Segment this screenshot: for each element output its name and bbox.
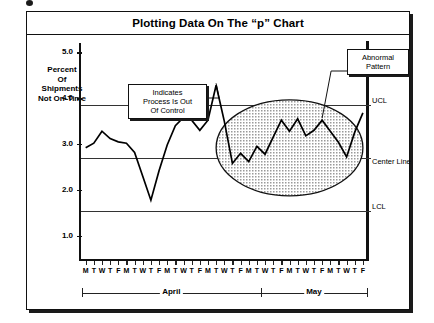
center-line-label: Center Line [372, 157, 411, 166]
y-axis-tick-label: 4.0 [47, 93, 73, 102]
abnormal-pattern-leader-line [322, 71, 347, 118]
y-axis-tick-mark [77, 98, 82, 99]
x-axis-tick-mark [241, 261, 242, 265]
x-axis-tick-mark [200, 261, 201, 265]
y-axis-tick-label: 1.0 [47, 231, 73, 240]
y-axis-tick-label: 2.0 [47, 185, 73, 194]
center-line [81, 158, 371, 159]
x-axis-tick-mark [322, 261, 323, 265]
month-group-row: AprilMay [27, 283, 409, 305]
x-axis-tick-mark [338, 261, 339, 265]
annotation-ooc-line-2: Process Is Out [133, 97, 202, 106]
y-axis-tick-label: 3.0 [47, 139, 73, 148]
y-axis-title-line-1: Percent [33, 65, 91, 75]
x-axis-tick-mark [224, 261, 225, 265]
x-axis-tick-mark [208, 261, 209, 265]
page-title: Plotting Data On The “p” Chart [132, 17, 304, 29]
y-axis-tick-label: 5.0 [47, 47, 73, 56]
y-axis-title-line-2: Of [33, 75, 91, 85]
month-label: April [160, 287, 182, 296]
x-axis-tick-mark [363, 261, 364, 265]
x-axis-tick-mark [167, 261, 168, 265]
x-axis-tick-mark [347, 261, 348, 265]
chart-title-bar: Plotting Data On The “p” Chart [27, 12, 409, 35]
annotation-abn-line-2: Pattern [352, 62, 404, 71]
x-axis-tick-mark [151, 261, 152, 265]
y-axis-line [79, 43, 81, 259]
x-axis-tick-label: F [357, 267, 369, 274]
x-axis-tick-mark [314, 261, 315, 265]
print-artifact-dot [26, 0, 33, 6]
x-axis-tick-mark [102, 261, 103, 265]
x-axis-tick-mark [330, 261, 331, 265]
y-axis-tick-mark [77, 144, 82, 145]
x-axis-tick-mark [298, 261, 299, 265]
x-axis-tick-mark [306, 261, 307, 265]
lcl-line [81, 211, 371, 212]
y-axis-tick-mark [77, 52, 82, 53]
x-axis-tick-mark [232, 261, 233, 265]
month-span-end-cap [367, 288, 368, 297]
ucl-line [81, 105, 371, 106]
annotation-ooc-line-1: Indicates [133, 88, 202, 97]
x-axis-tick-mark [273, 261, 274, 265]
y-axis-title-line-3: Shipments [33, 84, 91, 94]
ucl-label: UCL [372, 96, 387, 105]
x-axis-tick-mark [118, 261, 119, 265]
x-axis-tick-mark [175, 261, 176, 265]
x-axis-tick-mark [159, 261, 160, 265]
x-axis-tick-mark [216, 261, 217, 265]
x-axis-tick-mark [281, 261, 282, 265]
x-axis-tick-mark [86, 261, 87, 265]
x-axis-tick-mark [290, 261, 291, 265]
x-axis-tick-mark [184, 261, 185, 265]
abnormal-pattern-highlight-ellipse [216, 100, 363, 196]
x-axis-tick-mark [110, 261, 111, 265]
plot-container: Percent Of Shipments Not On-Time 5.04.03… [27, 35, 409, 311]
month-label: May [304, 287, 324, 296]
x-axis-tick-mark [192, 261, 193, 265]
month-span-end-cap [82, 288, 83, 297]
x-axis-tick-mark [265, 261, 266, 265]
lcl-label: LCL [372, 202, 386, 211]
out-of-control-leader-line [207, 83, 219, 98]
x-axis-tick-mark [355, 261, 356, 265]
chart-figure: Plotting Data On The “p” Chart Percent O… [26, 11, 410, 310]
annotation-out-of-control: Indicates Process Is Out Of Control [128, 84, 207, 119]
x-axis-tick-mark [94, 261, 95, 265]
x-axis-tick-mark [249, 261, 250, 265]
x-axis-tick-mark [143, 261, 144, 265]
x-axis-tick-mark [135, 261, 136, 265]
month-span-end-cap [261, 288, 262, 297]
annotation-abn-line-1: Abnormal [352, 53, 404, 62]
x-axis-tick-mark [257, 261, 258, 265]
x-axis-tick-mark [126, 261, 127, 265]
y-axis-tick-mark [77, 236, 82, 237]
y-axis-tick-mark [77, 190, 82, 191]
annotation-abnormal-pattern: Abnormal Pattern [347, 49, 409, 75]
annotation-ooc-line-3: Of Control [133, 106, 202, 115]
